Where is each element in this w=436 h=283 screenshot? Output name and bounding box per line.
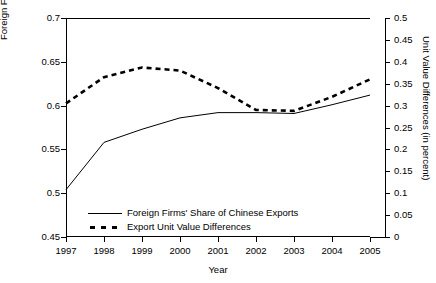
legend-key-dashed-line [88,221,122,233]
legend-label-unit-value-differences: Export Unit Value Differences [127,220,251,234]
legend: Foreign Firms' Share of Chinese Exports … [88,206,298,234]
legend-label-foreign-firms-share: Foreign Firms' Share of Chinese Exports [127,206,298,220]
legend-item-unit-value-differences: Export Unit Value Differences [88,220,298,234]
y-axis-title: Foreign Firms' Share of Chinese Exports [0,0,9,40]
y2-axis-title: Unit Value Differences (in percent) [421,36,432,246]
series-line-foreign-firms-share [66,95,370,190]
series-lines [0,0,436,283]
series-line-unit-value-differences [66,67,370,110]
x-axis-title: Year [0,264,436,276]
chart-figure: 0.450.50.550.60.650.7 00.050.10.150.20.2… [0,0,436,283]
legend-key-solid-line [88,207,122,219]
legend-item-foreign-firms-share: Foreign Firms' Share of Chinese Exports [88,206,298,220]
